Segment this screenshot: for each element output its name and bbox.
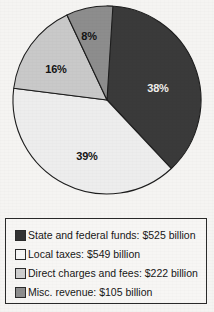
pie-slice-percent-label: 16%	[45, 63, 67, 75]
legend-label-direct-charges-and-fees: Direct charges and fees: $222 billion	[28, 268, 198, 279]
pie-slice-group	[13, 6, 201, 194]
legend-swatch-state-and-federal-funds	[15, 230, 26, 241]
legend-label-misc-revenue: Misc. revenue: $105 billion	[28, 287, 152, 298]
legend-item: Direct charges and fees: $222 billion	[15, 264, 206, 283]
pie-chart: 38%39%16%8%	[0, 0, 214, 214]
legend-swatch-direct-charges-and-fees	[15, 268, 26, 279]
legend-swatch-misc-revenue	[15, 287, 26, 298]
legend-label-local-taxes: Local taxes: $549 billion	[28, 249, 140, 260]
legend-item: Local taxes: $549 billion	[15, 245, 206, 264]
pie-slice-percent-label: 39%	[76, 150, 98, 162]
legend-label-state-and-federal-funds: State and federal funds: $525 billion	[28, 230, 196, 241]
pie-chart-svg: 38%39%16%8%	[0, 0, 214, 214]
legend-swatch-local-taxes	[15, 249, 26, 260]
legend-item: State and federal funds: $525 billion	[15, 226, 206, 245]
pie-slice-percent-label: 8%	[81, 30, 97, 42]
chart-legend: State and federal funds: $525 billion Lo…	[5, 218, 207, 304]
pie-slice-percent-label: 38%	[147, 82, 169, 94]
legend-item: Misc. revenue: $105 billion	[15, 283, 206, 302]
